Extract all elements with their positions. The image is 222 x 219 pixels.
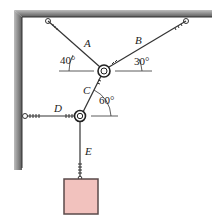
label-d: D [53,102,62,114]
upper-ring [98,65,110,77]
anchor-d [23,114,28,119]
label-b: B [135,34,142,46]
statics-diagram: A B C D E 40° 30° 60° [0,0,222,219]
lower-ring [75,111,86,122]
angle-label-a: 40° [60,54,75,66]
label-c: C [83,84,91,96]
label-e: E [84,145,92,157]
angle-label-c: 60° [99,94,114,106]
left-wall [14,10,22,170]
hanging-block [64,179,98,214]
angle-label-b: 30° [134,55,149,67]
angle-arcs [69,55,142,116]
ceiling [14,10,212,17]
label-a: A [83,37,91,49]
